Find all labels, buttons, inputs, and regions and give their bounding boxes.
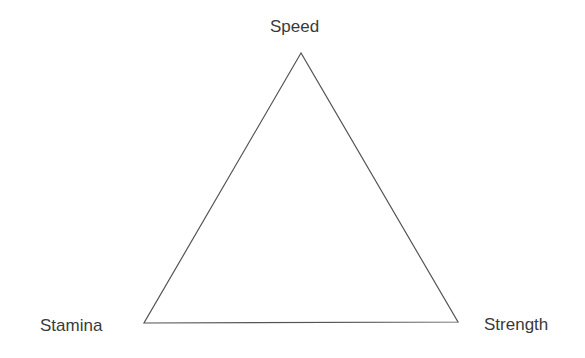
vertex-label-stamina: Stamina: [40, 316, 102, 336]
vertex-label-strength: Strength: [484, 315, 548, 335]
triangle-shape: [144, 53, 458, 323]
triangle-diagram: [0, 0, 585, 358]
vertex-label-speed: Speed: [270, 17, 319, 37]
